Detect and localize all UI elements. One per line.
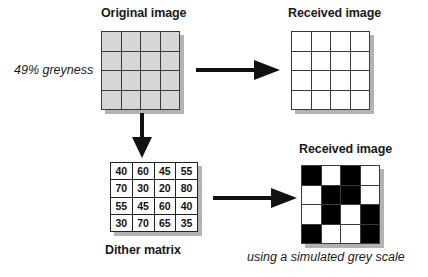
original-cell-r4-c2 — [122, 91, 141, 110]
dither-cell-r1-c3: 45 — [155, 163, 176, 179]
received-top-cell-r1-c1 — [292, 32, 311, 51]
dither-matrix-grid: 40604555703020805545604030706535 — [110, 162, 198, 232]
dither-cell-r4-c2: 70 — [133, 215, 154, 231]
received-top-grid-cells — [291, 31, 370, 110]
original-cell-r1-c1 — [102, 32, 121, 51]
received-bottom-cell-r2-c1 — [302, 186, 321, 205]
received-bottom-cell-r3-c2 — [322, 205, 341, 224]
original-cell-r3-c1 — [102, 71, 121, 90]
greyness-label: 49% greyness — [14, 63, 93, 77]
original-image-grid — [101, 31, 180, 110]
received-top-cell-r1-c3 — [331, 32, 350, 51]
dither-cell-r4-c3: 65 — [155, 215, 176, 231]
received-top-cell-r1-c2 — [312, 32, 331, 51]
original-cell-r1-c3 — [141, 32, 160, 51]
original-cell-r4-c4 — [161, 91, 180, 110]
original-cell-r3-c4 — [161, 71, 180, 90]
arrow-original-to-received — [196, 58, 282, 82]
received-top-cell-r2-c3 — [331, 52, 350, 71]
dither-cell-r1-c4: 55 — [176, 163, 197, 179]
original-cell-r2-c4 — [161, 52, 180, 71]
received-bottom-cell-r1-c2 — [322, 166, 341, 185]
received-top-cell-r4-c3 — [331, 91, 350, 110]
dithering-diagram: Original image Received image 49% greyne… — [0, 0, 428, 277]
dither-cell-r3-c2: 45 — [133, 198, 154, 214]
dither-cell-r4-c4: 35 — [176, 215, 197, 231]
received-top-cell-r2-c1 — [292, 52, 311, 71]
received-bottom-cell-r1-c3 — [341, 166, 360, 185]
received-bottom-cell-r1-c4 — [361, 166, 380, 185]
dither-cell-r2-c3: 20 — [155, 180, 176, 196]
received-top-cell-r4-c1 — [292, 91, 311, 110]
received-top-cell-r2-c4 — [351, 52, 370, 71]
received-top-cell-r1-c4 — [351, 32, 370, 51]
dither-matrix-label: Dither matrix — [105, 243, 181, 257]
original-grid-cells — [101, 31, 180, 110]
received-bottom-cell-r2-c3 — [341, 186, 360, 205]
dither-cell-r1-c1: 40 — [111, 163, 132, 179]
dither-cell-r1-c2: 60 — [133, 163, 154, 179]
dither-cell-r4-c1: 30 — [111, 215, 132, 231]
received-top-cell-r3-c3 — [331, 71, 350, 90]
dither-cell-r3-c3: 60 — [155, 198, 176, 214]
received-top-cell-r4-c2 — [312, 91, 331, 110]
original-cell-r1-c2 — [122, 32, 141, 51]
received-bottom-cell-r4-c3 — [341, 225, 360, 244]
received-bottom-cell-r2-c4 — [361, 186, 380, 205]
original-cell-r3-c3 — [141, 71, 160, 90]
dither-cell-r2-c1: 70 — [111, 180, 132, 196]
original-cell-r1-c4 — [161, 32, 180, 51]
simulated-grey-scale-caption: using a simulated grey scale — [247, 250, 405, 264]
received-top-cell-r3-c4 — [351, 71, 370, 90]
received-image-top-title: Received image — [288, 6, 381, 20]
received-bottom-cell-r3-c4 — [361, 205, 380, 224]
received-bottom-cell-r2-c2 — [322, 186, 341, 205]
received-image-bottom-title: Received image — [299, 142, 392, 156]
received-top-cell-r2-c2 — [312, 52, 331, 71]
received-top-cell-r3-c1 — [292, 71, 311, 90]
received-bottom-cell-r1-c1 — [302, 166, 321, 185]
dither-cell-r3-c1: 55 — [111, 198, 132, 214]
received-bottom-cell-r3-c1 — [302, 205, 321, 224]
original-image-title: Original image — [101, 6, 186, 20]
received-image-bottom-grid — [301, 165, 380, 244]
original-cell-r4-c1 — [102, 91, 121, 110]
dither-cell-r3-c4: 40 — [176, 198, 197, 214]
received-bottom-cell-r4-c2 — [322, 225, 341, 244]
received-bottom-grid-cells — [301, 165, 380, 244]
dither-cell-r2-c2: 30 — [133, 180, 154, 196]
received-top-cell-r3-c2 — [312, 71, 331, 90]
arrow-original-to-dither — [130, 113, 154, 159]
original-cell-r2-c3 — [141, 52, 160, 71]
received-image-top-grid — [291, 31, 370, 110]
received-bottom-cell-r4-c1 — [302, 225, 321, 244]
dither-cell-r2-c4: 80 — [176, 180, 197, 196]
original-cell-r4-c3 — [141, 91, 160, 110]
original-cell-r2-c1 — [102, 52, 121, 71]
original-cell-r3-c2 — [122, 71, 141, 90]
original-cell-r2-c2 — [122, 52, 141, 71]
dither-matrix-cells: 40604555703020805545604030706535 — [110, 162, 198, 232]
received-bottom-cell-r4-c4 — [361, 225, 380, 244]
received-bottom-cell-r3-c3 — [341, 205, 360, 224]
received-top-cell-r4-c4 — [351, 91, 370, 110]
arrow-dither-to-received — [213, 186, 299, 210]
